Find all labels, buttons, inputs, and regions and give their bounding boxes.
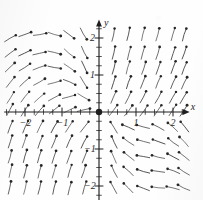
y-tick-label--1: −1 bbox=[84, 144, 96, 154]
y-axis-label: y bbox=[104, 18, 108, 28]
x-tick-label--2: −2 bbox=[20, 118, 32, 128]
x-tick-label--1: −1 bbox=[57, 118, 69, 128]
x-axis-label: x bbox=[191, 102, 195, 112]
y-tick-label-2: 2 bbox=[90, 33, 95, 43]
y-tick-label--2: −2 bbox=[84, 181, 96, 191]
direction-field-figure: −2−11221−1−2xy bbox=[0, 0, 203, 200]
x-tick-label-2: 2 bbox=[171, 118, 176, 128]
x-tick-label-1: 1 bbox=[134, 118, 139, 128]
y-tick-label-1: 1 bbox=[90, 70, 95, 80]
direction-field-plot bbox=[0, 0, 203, 200]
equilibrium-marker-layer bbox=[96, 109, 102, 115]
